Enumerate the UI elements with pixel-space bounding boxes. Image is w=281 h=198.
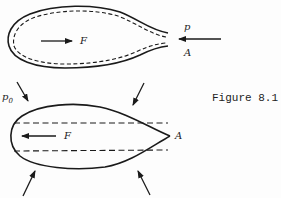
ambient-pressure-arrow-bottom-left [23, 171, 35, 196]
top-vessel [8, 6, 168, 68]
top-point-label: A [184, 48, 191, 58]
figure-caption: Figure 8.1 [212, 93, 278, 104]
ambient-pressure-subscript: 0 [8, 97, 12, 105]
ambient-pressure-arrow-bottom-right [138, 171, 150, 195]
ambient-pressure-arrow-right [133, 83, 144, 105]
bottom-point-label: A [175, 131, 182, 141]
figure-8-1: F p A p0 Figure 8.1 F A [0, 0, 281, 198]
ambient-pressure-arrow-left [17, 82, 28, 101]
top-force-label: F [80, 36, 87, 46]
bottom-force-label: F [64, 131, 71, 141]
pressure-label: p [184, 22, 190, 32]
ambient-pressure-label: p0 [2, 92, 13, 105]
